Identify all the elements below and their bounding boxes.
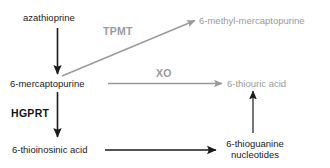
node-6-thiouric-acid: 6-thiouric acid [227, 78, 286, 89]
node-6-mercaptopurine: 6-mercaptopurine [10, 78, 84, 89]
pathway-diagram: azathioprine 6-mercaptopurine 6-methyl-m… [0, 0, 330, 168]
enzyme-label-xo: XO [156, 67, 172, 79]
node-6-thioinosinic-acid: 6-thioinosinic acid [12, 144, 88, 155]
node-6-methyl-mercaptopurine: 6-methyl-mercaptopurine [199, 15, 305, 26]
node-azathioprine: azathioprine [23, 12, 75, 23]
node-6-thioguanine-nucleotides-line2: nucleotides [231, 149, 279, 160]
enzyme-label-hgprt: HGPRT [11, 107, 49, 119]
node-6-thioguanine-nucleotides-line1: 6-thioguanine [226, 138, 284, 149]
enzyme-label-tpmt: TPMT [103, 25, 133, 37]
node-6-thioguanine-nucleotides: 6-thioguanine nucleotides [219, 138, 291, 160]
